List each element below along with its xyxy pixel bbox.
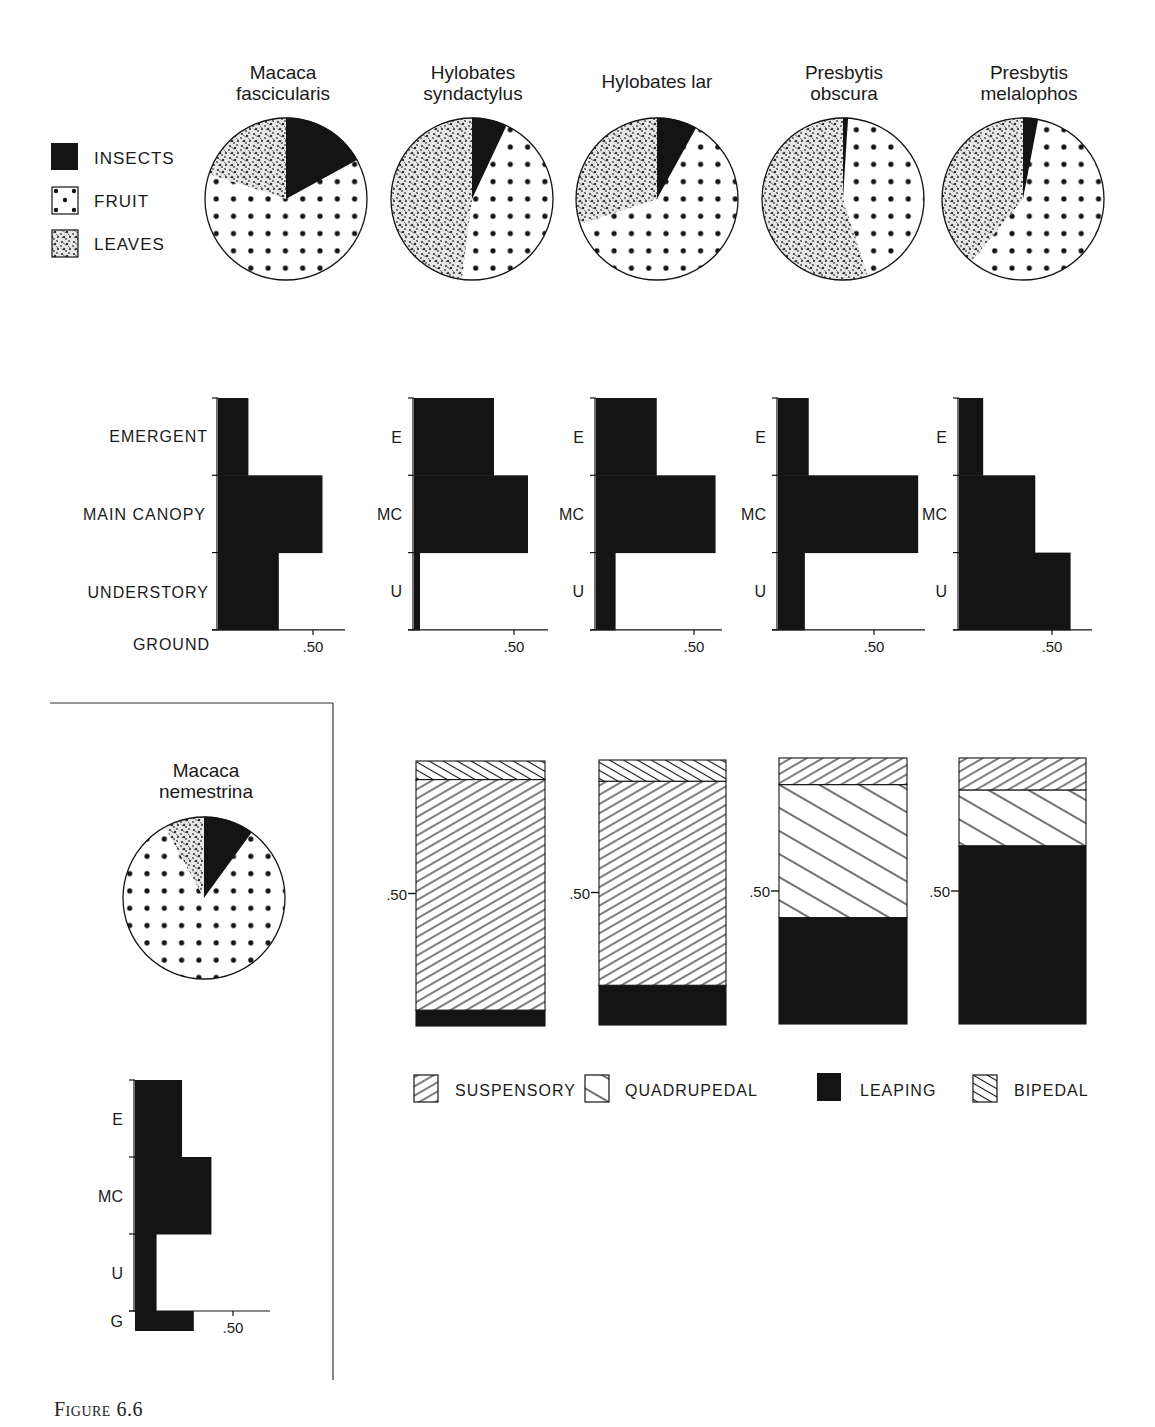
legend-item-fruit: FRUIT [52,187,149,214]
figure-label: Figure 6.6 [54,1398,143,1420]
y-tick-label: .50 [929,883,950,900]
pie-title: Macaca [173,760,240,781]
strata-bar-main-canopy [414,475,528,553]
pie-hylobates-syndactylus: Hylobatessyndactylus [391,62,553,280]
x-tick-label: .50 [684,638,705,655]
pie-macaca-fascicularis: Macacafascicularis [205,62,367,280]
strata-bar-understory [778,553,805,631]
x-tick-label: .50 [223,1319,244,1336]
strata-bar-understory [959,553,1071,631]
legend-label-fruit: FRUIT [94,192,149,211]
locomotion-legend: SUSPENSORY QUADRUPEDAL LEAPING BIPEDAL [414,1073,1089,1102]
legend-label-leaping: LEAPING [860,1082,936,1099]
strata-abbrev-label: MC [741,506,766,523]
legend-item-quadrupedal: QUADRUPEDAL [585,1075,758,1102]
legend-label-leaves: LEAVES [94,235,165,254]
strata-chart-macaca-fascicularis: .50 [212,398,345,655]
strata-bar-understory [596,553,616,631]
figure-caption: Figure 6.6 [54,1398,143,1421]
legend-label-bipedal: BIPEDAL [1014,1082,1089,1099]
legend-item-leaves: LEAVES [52,230,165,257]
pie-title: fascicularis [236,83,330,104]
strata-bar-emergent [959,398,983,476]
legend-item-suspensory: SUSPENSORY [414,1075,576,1102]
strata-chart-presbytis-obscura: .50EMCU [741,398,925,655]
locomotion-segment-leaping [416,1010,545,1026]
pie-title: melalophos [980,83,1077,104]
strata-bar-main-canopy [778,475,918,553]
x-tick-label: .50 [1042,638,1063,655]
pie-slice-leaves [391,118,472,279]
strata-abbrev-label: U [754,583,766,600]
quadrupedal-swatch-icon [585,1075,609,1102]
strata-abbrev-label: E [391,429,402,446]
locomotion-segment-suspensory [416,780,545,1011]
strata-abbrev-label: E [112,1111,123,1128]
locomotion-segment-suspensory [599,781,726,985]
locomotion-segment-suspensory [779,758,907,785]
strata-chart-macaca-nemestrina: .50EMCUG [98,1080,270,1336]
pie-presbytis-melalophos: Presbytismelalophos [942,62,1104,280]
locomotion-segment-bipedal [416,761,545,780]
strata-bar-understory [414,553,420,631]
locomotion-bar-presbytis-obscura: .50 [749,758,907,1024]
strata-bar-emergent [414,398,494,476]
strata-abbrev-label: E [936,429,947,446]
strata-abbrev-label: E [755,429,766,446]
legend-item-leaping: LEAPING [817,1073,936,1101]
locomotion-segment-quadrupedal [779,785,907,918]
legend-item-bipedal: BIPEDAL [973,1075,1089,1102]
strata-bar-understory [135,1234,157,1312]
strata-bar-main-canopy [135,1157,211,1235]
y-tick-label: .50 [569,885,590,902]
x-tick-label: .50 [504,638,525,655]
y-tick-label: .50 [749,883,770,900]
pie-title: syndactylus [423,83,522,104]
strata-abbrev-label: U [111,1265,123,1282]
strata-bar-ground [135,1311,194,1331]
strata-bar-main-canopy [959,475,1035,553]
pie-presbytis-obscura: Presbytisobscura [762,62,924,280]
strata-chart-hylobates-syndactylus: .50EMCU [377,398,548,655]
pie-title: Presbytis [805,62,883,83]
y-tick-label: .50 [386,886,407,903]
strata-label-understory: UNDERSTORY [88,584,209,601]
diet-legend: INSECTS FRUIT LEAVES [51,143,175,257]
strata-chart-presbytis-melalophos: .50EMCU [922,398,1092,655]
strata-abbrev-label: MC [377,506,402,523]
locomotion-segment-leaping [779,918,907,1024]
strata-abbrev-label: U [572,583,584,600]
locomotion-segment-leaping [599,985,726,1025]
locomotion-bar-charts: .50.50.50.50 [386,758,1086,1026]
strata-bar-main-canopy [218,475,323,553]
strata-abbrev-label: G [111,1313,123,1330]
figure-canvas: INSECTS FRUIT LEAVES MacacafascicularisH… [0,0,1155,1427]
pie-title: Presbytis [990,62,1068,83]
strata-abbrev-label: E [573,429,584,446]
strata-bar-understory [218,553,279,631]
pie-macaca-nemestrina: Macacanemestrina [123,760,285,979]
x-tick-label: .50 [864,638,885,655]
pie-hylobates-lar: Hylobates lar [576,71,738,280]
strata-bar-emergent [218,398,248,476]
locomotion-bar-hylobates-lar: .50 [569,760,726,1025]
pie-title: Hylobates lar [602,71,714,92]
locomotion-segment-leaping [959,846,1086,1024]
strata-bar-main-canopy [596,475,716,553]
locomotion-bar-presbytis-melalophos: .50 [929,758,1086,1024]
strata-chart-hylobates-lar: .50EMCU [559,398,722,655]
leaping-swatch-icon [817,1073,841,1101]
locomotion-segment-bipedal [599,760,726,781]
pie-title: obscura [810,83,878,104]
strata-label-main-canopy: MAIN CANOPY [83,506,206,523]
legend-label-quadrupedal: QUADRUPEDAL [625,1082,758,1099]
x-tick-label: .50 [303,638,324,655]
insects-swatch-icon [51,143,78,170]
strata-abbrev-label: MC [922,506,947,523]
strata-abbrev-label: MC [559,506,584,523]
legend-item-insects: INSECTS [51,143,175,170]
legend-label-insects: INSECTS [94,149,175,168]
strata-label-emergent: EMERGENT [109,428,208,445]
strata-label-ground: GROUND [133,636,210,653]
leaves-swatch-icon [52,230,78,257]
